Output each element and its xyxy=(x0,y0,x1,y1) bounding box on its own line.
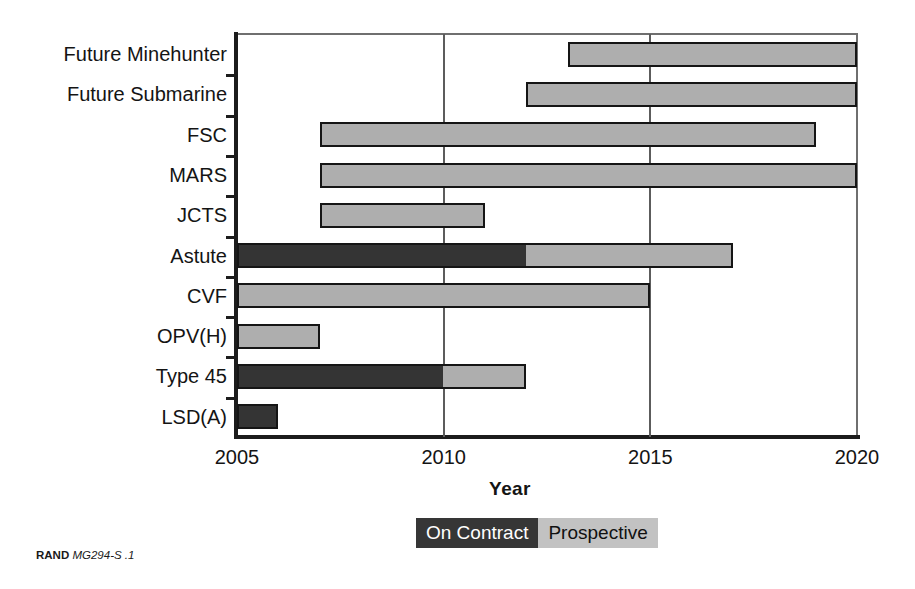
legend-item-prospective[interactable]: Prospective xyxy=(538,518,657,548)
category-label: OPV(H) xyxy=(157,316,237,356)
gantt-bar[interactable] xyxy=(526,82,857,107)
gantt-bar-segment xyxy=(443,366,525,387)
x-axis-title: Year xyxy=(0,478,915,500)
y-axis-tick xyxy=(226,155,237,158)
y-axis-tick xyxy=(226,356,237,359)
category-label-column: Future MinehunterFuture SubmarineFSCMARS… xyxy=(0,34,237,437)
x-tick-label: 2010 xyxy=(421,446,466,469)
source-org: RAND xyxy=(36,549,69,561)
gantt-bar[interactable] xyxy=(237,324,320,349)
category-label: Future Submarine xyxy=(67,74,237,114)
category-label: MARS xyxy=(169,155,237,195)
legend-label-prospective: Prospective xyxy=(548,522,647,544)
legend-label-on-contract: On Contract xyxy=(426,522,528,544)
legend: On Contract Prospective xyxy=(416,518,658,548)
gantt-bar-segment xyxy=(322,205,483,226)
gantt-bar[interactable] xyxy=(237,243,733,268)
y-axis-tick xyxy=(226,115,237,118)
gantt-bar-segment xyxy=(239,245,526,266)
gantt-bar-segment xyxy=(528,84,855,105)
x-tick-label: 2015 xyxy=(628,446,673,469)
gantt-bar-segment xyxy=(322,165,855,186)
y-axis-tick xyxy=(226,397,237,400)
category-label: Type 45 xyxy=(156,356,237,396)
source-attribution: RAND MG294-S .1 xyxy=(36,549,134,561)
gantt-bar[interactable] xyxy=(568,42,857,67)
x-tick-label: 2020 xyxy=(835,446,880,469)
y-axis-tick xyxy=(226,195,237,198)
gantt-bar-segment xyxy=(239,406,276,427)
gantt-bar[interactable] xyxy=(237,283,650,308)
y-axis-tick xyxy=(226,316,237,319)
gantt-bar-segment xyxy=(322,124,814,145)
category-label: FSC xyxy=(187,115,237,155)
category-label: Future Minehunter xyxy=(64,34,237,74)
gantt-bar-segment xyxy=(239,326,318,347)
y-axis-tick xyxy=(226,236,237,239)
gantt-bar-segment xyxy=(526,245,731,266)
gantt-bar[interactable] xyxy=(320,122,816,147)
x-axis-title-text: Year xyxy=(489,478,531,499)
gantt-bar[interactable] xyxy=(237,404,278,429)
gantt-bar[interactable] xyxy=(320,163,857,188)
legend-item-on-contract[interactable]: On Contract xyxy=(416,518,538,548)
gantt-bar-segment xyxy=(570,44,855,65)
y-axis-tick xyxy=(226,74,237,77)
category-label: LSD(A) xyxy=(161,397,237,437)
y-axis-tick xyxy=(226,276,237,279)
gantt-bar[interactable] xyxy=(237,364,526,389)
x-tick-label: 2005 xyxy=(215,446,260,469)
category-label: Astute xyxy=(170,236,237,276)
gantt-bar[interactable] xyxy=(320,203,485,228)
gantt-bar-segment xyxy=(239,285,648,306)
gantt-chart: Future MinehunterFuture SubmarineFSCMARS… xyxy=(0,0,915,589)
category-label: JCTS xyxy=(177,195,237,235)
gantt-bar-segment xyxy=(239,366,443,387)
source-ref: MG294-S .1 xyxy=(72,549,134,561)
category-label: CVF xyxy=(187,276,237,316)
